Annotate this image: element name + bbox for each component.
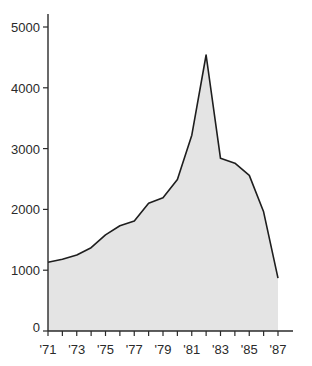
y-tick-label: 1000 (11, 263, 40, 278)
x-tick-label: '87 (270, 342, 287, 357)
area-chart: 010002000300040005000 '71'73'75'77'79'81… (0, 0, 312, 366)
x-tick-label: '81 (183, 342, 200, 357)
y-axis-ticks: 010002000300040005000 (11, 20, 48, 335)
plot-area (48, 55, 278, 331)
y-tick-label: 0 (33, 320, 40, 335)
x-tick-label: '85 (241, 342, 258, 357)
y-tick-label: 3000 (11, 142, 40, 157)
x-tick-label: '71 (40, 342, 57, 357)
x-tick-label: '73 (68, 342, 85, 357)
x-tick-label: '79 (155, 342, 172, 357)
x-tick-label: '77 (126, 342, 143, 357)
x-tick-label: '83 (212, 342, 229, 357)
area-fill (48, 55, 278, 331)
y-tick-label: 2000 (11, 202, 40, 217)
y-tick-label: 5000 (11, 20, 40, 35)
x-axis-ticks: '71'73'75'77'79'81'83'85'87 (40, 331, 287, 357)
y-tick-label: 4000 (11, 81, 40, 96)
x-tick-label: '75 (97, 342, 114, 357)
